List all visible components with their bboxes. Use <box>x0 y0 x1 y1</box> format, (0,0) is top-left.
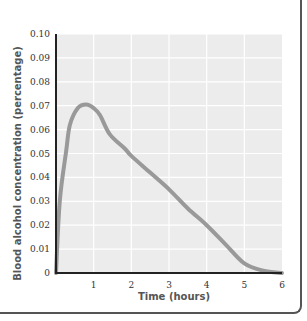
x-tick-label: 5 <box>241 280 247 290</box>
y-tick-label: 0 <box>44 268 50 278</box>
y-tick-label: 0.09 <box>30 53 50 63</box>
x-tick-label: 3 <box>166 280 172 290</box>
x-tick-label: 6 <box>279 280 285 290</box>
x-tick-label: 4 <box>204 280 210 290</box>
y-axis-title: Blood alcohol concentration (percentage) <box>12 46 23 281</box>
y-tick-label: 0.08 <box>30 77 50 87</box>
y-axis-ticks: 00.010.020.030.040.050.060.070.080.090.1… <box>30 29 50 278</box>
x-tick-label: 1 <box>91 280 97 290</box>
y-tick-label: 0.03 <box>30 196 50 206</box>
y-tick-label: 0.05 <box>30 149 50 159</box>
x-axis-title: Time (hours) <box>138 291 210 302</box>
y-tick-label: 0.01 <box>30 244 50 254</box>
y-tick-label: 0.07 <box>30 101 50 111</box>
y-tick-label: 0.02 <box>30 220 50 230</box>
y-tick-label: 0.06 <box>30 125 50 135</box>
line-chart: 00.010.020.030.040.050.060.070.080.090.1… <box>0 0 307 321</box>
y-tick-label: 0.04 <box>30 172 50 182</box>
y-tick-label: 0.10 <box>30 29 50 39</box>
x-tick-label: 2 <box>128 280 134 290</box>
x-axis-ticks: 123456 <box>91 280 285 290</box>
